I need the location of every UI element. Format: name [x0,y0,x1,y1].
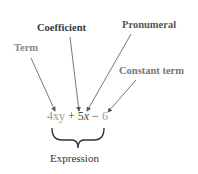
coefficient-arrow [70,37,79,111]
minus-operator: − [89,109,102,123]
term-label: Term [14,42,38,53]
expression-label: Expression [50,152,99,164]
term-4xy: 4xy [47,109,65,123]
algebraic-expression: 4xy + 5x − 6 [47,109,108,124]
curly-brace [52,128,104,148]
pronumeral-label: Pronumeral [122,19,176,30]
constant-term-label: Constant term [119,65,184,76]
constant-arrow [108,80,136,112]
constant-6: 6 [102,109,108,123]
plus-operator: + [65,109,78,123]
term-arrow [31,58,55,111]
coefficient-label: Coefficient [37,22,86,33]
